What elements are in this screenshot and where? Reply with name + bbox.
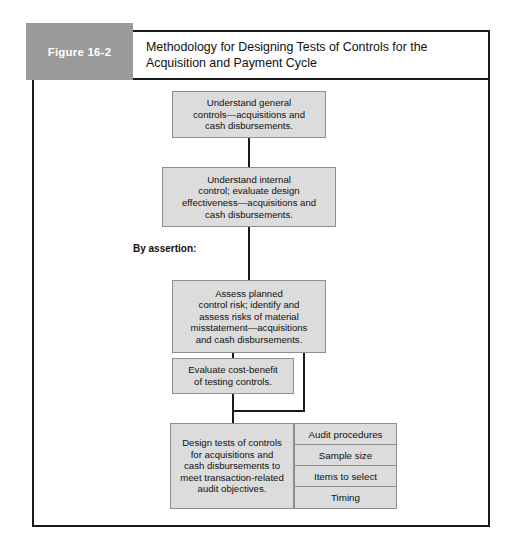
flow-box-line: of testing controls. [188, 376, 278, 388]
flow-box-line: cash disbursements to [180, 460, 283, 472]
flow-box-line: and cash disbursements. [191, 334, 308, 346]
flow-box-line: Evaluate cost-benefit [188, 364, 278, 376]
figure-frame: Understand general controls—acquisitions… [32, 30, 490, 527]
flow-box-assess-planned-control-risk: Assess planned control risk; identify an… [172, 280, 326, 353]
connector-bypass-vertical [303, 353, 305, 411]
figure-title: Methodology for Designing Tests of Contr… [146, 40, 466, 71]
connector-bypass-horizontal [232, 410, 305, 412]
flow-box-line: for acquisitions and [180, 449, 283, 461]
flow-box-line: control risk; identify and [191, 299, 308, 311]
flow-box-line: Assess planned [191, 288, 308, 300]
flow-box-line: assess risks of material [191, 311, 308, 323]
flow-box-line: controls—acquisitions and [193, 109, 305, 121]
flow-box-line: control; evaluate design [182, 185, 316, 197]
flow-box-line: Understand general [193, 97, 305, 109]
flow-box-line: effectiveness—acquisitions and [182, 197, 316, 209]
flow-box-line: meet transaction-related [180, 472, 283, 484]
flow-box-understand-internal-control: Understand internal control; evaluate de… [162, 167, 336, 227]
design-element-audit-procedures: Audit procedures [294, 423, 397, 445]
figure-number-badge: Figure 16-2 [26, 23, 133, 80]
flow-box-line: Understand internal [182, 174, 316, 186]
design-element-timing: Timing [294, 486, 397, 509]
flow-box-line: cash disbursements. [182, 209, 316, 221]
flow-box-line: misstatement—acquisitions [191, 322, 308, 334]
flow-box-evaluate-cost-benefit: Evaluate cost-benefit of testing control… [172, 358, 294, 394]
flow-box-line: audit objectives. [180, 483, 283, 495]
flow-box-line: Design tests of controls [180, 437, 283, 449]
flow-box-understand-general-controls: Understand general controls—acquisitions… [172, 91, 326, 138]
design-element-items-to-select: Items to select [294, 465, 397, 487]
connector-evaluate-to-junction [232, 394, 234, 411]
connector-step2-to-step3 [248, 227, 250, 280]
connector-step1-to-step2 [248, 138, 250, 167]
design-element-sample-size: Sample size [294, 444, 397, 466]
figure-title-line1: Methodology for Designing Tests of Contr… [146, 40, 466, 56]
connector-junction-to-design [232, 410, 234, 423]
flow-box-line: cash disbursements. [193, 120, 305, 132]
flow-box-design-tests-of-controls: Design tests of controls for acquisition… [170, 423, 294, 509]
assertion-label: By assertion: [133, 243, 196, 254]
figure-title-line2: Acquisition and Payment Cycle [146, 56, 466, 72]
